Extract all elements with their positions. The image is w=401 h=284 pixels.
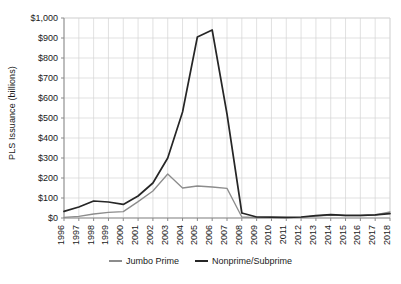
x-tick-label: 1998: [86, 225, 96, 245]
plot-area: $0$100$200$300$400$500$600$700$800$900$1…: [22, 8, 394, 258]
x-tick-label: 2006: [204, 225, 214, 245]
caption-strip: [0, 274, 401, 284]
x-tick-label: 2001: [130, 225, 140, 245]
x-tick-label: 2004: [175, 225, 185, 245]
x-axis-tick-labels: 1996199719981999200020012002200320042005…: [56, 225, 392, 245]
x-tick-label: 2017: [367, 225, 377, 245]
x-tick-label: 2013: [308, 225, 318, 245]
y-axis-title: PLS Issuance (billions): [7, 33, 17, 193]
axes-layer: [61, 18, 390, 221]
legend-label: Jumbo Prime: [126, 256, 179, 266]
x-tick-label: 2005: [189, 225, 199, 245]
y-tick-label: $200: [38, 173, 58, 183]
x-tick-label: 1996: [56, 225, 66, 245]
chart-figure: PLS Issuance (billions) $0$100$200$300$4…: [0, 0, 401, 284]
y-tick-label: $0: [48, 213, 58, 223]
chart-legend: Jumbo Prime Nonprime/Subprime: [0, 256, 401, 266]
y-tick-label: $300: [38, 153, 58, 163]
y-tick-label: $1,000: [30, 13, 58, 23]
x-tick-label: 2015: [338, 225, 348, 245]
x-tick-label: 2000: [115, 225, 125, 245]
y-tick-label: $700: [38, 73, 58, 83]
x-tick-label: 2010: [263, 225, 273, 245]
legend-line-swatch-icon: [195, 260, 208, 262]
y-tick-label: $800: [38, 53, 58, 63]
y-tick-label: $900: [38, 33, 58, 43]
y-tick-label: $100: [38, 193, 58, 203]
x-tick-label: 2011: [278, 225, 288, 244]
x-tick-label: 2007: [219, 225, 229, 245]
y-axis-tick-labels: $0$100$200$300$400$500$600$700$800$900$1…: [30, 13, 58, 223]
y-tick-label: $400: [38, 133, 58, 143]
legend-item-nonprime-subprime: Nonprime/Subprime: [195, 256, 292, 266]
line-chart-svg: $0$100$200$300$400$500$600$700$800$900$1…: [22, 8, 394, 258]
legend-line-swatch-icon: [109, 260, 122, 262]
x-tick-label: 2008: [234, 225, 244, 245]
x-tick-label: 2018: [382, 225, 392, 245]
x-tick-label: 2003: [160, 225, 170, 245]
y-tick-label: $600: [38, 93, 58, 103]
x-tick-label: 2016: [352, 225, 362, 245]
x-tick-label: 2002: [145, 225, 155, 245]
x-tick-label: 2009: [249, 225, 259, 245]
x-tick-label: 2014: [323, 225, 333, 245]
x-tick-label: 2012: [293, 225, 303, 245]
y-tick-label: $500: [38, 113, 58, 123]
legend-item-jumbo-prime: Jumbo Prime: [109, 256, 179, 266]
x-tick-label: 1999: [100, 225, 110, 245]
legend-label: Nonprime/Subprime: [212, 256, 292, 266]
x-tick-label: 1997: [71, 225, 81, 245]
